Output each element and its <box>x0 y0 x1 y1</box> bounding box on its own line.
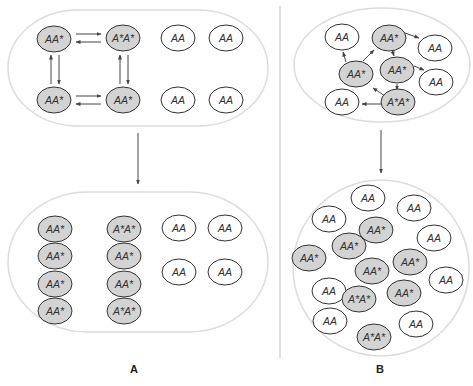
mutant-cell: AA* <box>372 25 406 51</box>
cell-genotype-label: AA* <box>45 223 65 235</box>
cell-genotype-label: A*A* <box>386 96 410 108</box>
cell-genotype-label: AA* <box>400 256 420 268</box>
normal-cell: AA <box>418 35 452 61</box>
cell-genotype-label: AA <box>406 202 421 214</box>
normal-cell: AA <box>162 259 196 285</box>
normal-cell: AA <box>419 69 453 95</box>
mutant-cell: AA* <box>359 217 393 243</box>
cell-genotype-label: AA <box>428 76 443 88</box>
diagram-svg: AA*A*A*AAAAAA*AA*AAAA AA*AA*AA*AA*A*A*AA… <box>0 0 473 386</box>
mutant-cell: AA* <box>107 271 141 297</box>
cell-genotype-label: AA <box>438 274 453 286</box>
normal-cell: AA <box>312 278 346 304</box>
mutant-cell: AA* <box>339 61 373 87</box>
mutant-cell: A*A* <box>107 298 141 324</box>
mutant-cell: AA* <box>38 271 72 297</box>
cell-genotype-label: AA* <box>45 278 65 290</box>
cell-genotype-label: AA <box>321 285 336 297</box>
normal-cell: AA <box>399 311 433 337</box>
cell-genotype-label: AA* <box>387 64 407 76</box>
mutant-cell: AA* <box>355 258 389 284</box>
normal-cell: AA <box>429 267 463 293</box>
mutant-cell: A*A* <box>342 286 376 312</box>
normal-cell: AA <box>209 87 243 113</box>
cell-genotype-label: A*A* <box>347 293 371 305</box>
mutant-cell: AA* <box>37 87 71 113</box>
cell-genotype-label: AA <box>170 94 185 106</box>
mutant-cell: AA* <box>38 298 72 324</box>
normal-cell: AA <box>208 215 242 241</box>
panel-a-label: A <box>130 363 138 375</box>
mutant-cell: AA* <box>387 280 421 306</box>
normal-cell: AA <box>312 206 346 232</box>
cell-genotype-label: AA* <box>45 305 65 317</box>
mutant-cell: AA* <box>332 233 366 259</box>
normal-cell: AA <box>325 24 359 50</box>
cell-genotype-label: AA* <box>394 287 414 299</box>
mutant-cell: A*A* <box>106 25 140 51</box>
normal-cell: AA <box>161 87 195 113</box>
cell-genotype-label: AA* <box>45 250 65 262</box>
cell-genotype-label: AA* <box>366 224 386 236</box>
diagram-canvas: AA*A*A*AAAAAA*AA*AAAA AA*AA*AA*AA*A*A*AA… <box>0 0 473 386</box>
normal-cell: AA <box>209 25 243 51</box>
cell-genotype-label: AA* <box>339 240 359 252</box>
panel-b-label: B <box>376 363 384 375</box>
cell-genotype-label: AA <box>217 266 232 278</box>
cell-genotype-label: A*A* <box>112 305 136 317</box>
cell-genotype-label: AA <box>321 213 336 225</box>
cell-genotype-label: AA* <box>362 265 382 277</box>
cell-genotype-label: AA <box>426 232 441 244</box>
normal-cell: AA <box>208 259 242 285</box>
cell-genotype-label: AA <box>171 222 186 234</box>
cell-genotype-label: AA* <box>114 278 134 290</box>
cell-genotype-label: AA <box>322 315 337 327</box>
mutant-cell: AA* <box>292 245 326 271</box>
normal-cell: AA <box>351 185 385 211</box>
normal-cell: AA <box>397 195 431 221</box>
mutant-cell: AA* <box>393 249 427 275</box>
mutant-cell: AA* <box>38 216 72 242</box>
mutant-cell: AA* <box>380 57 414 83</box>
cell-genotype-label: A*A* <box>362 331 386 343</box>
cell-genotype-label: AA* <box>44 94 64 106</box>
cell-genotype-label: AA <box>217 222 232 234</box>
cell-genotype-label: AA <box>408 318 423 330</box>
cell-genotype-label: AA <box>170 32 185 44</box>
cell-genotype-label: AA* <box>379 32 399 44</box>
mutant-cell: AA* <box>107 243 141 269</box>
cell-genotype-label: AA <box>218 94 233 106</box>
mutant-cell: AA* <box>38 243 72 269</box>
cell-genotype-label: AA <box>171 266 186 278</box>
mutant-cell: AA* <box>37 26 71 52</box>
normal-cell: AA <box>161 25 195 51</box>
cell-genotype-label: AA* <box>346 68 366 80</box>
normal-cell: AA <box>313 308 347 334</box>
cell-genotype-label: A*A* <box>112 223 136 235</box>
cell-genotype-label: AA <box>334 96 349 108</box>
cell-genotype-label: AA <box>427 42 442 54</box>
mutant-cell: A*A* <box>381 89 415 115</box>
cell-genotype-label: AA <box>218 32 233 44</box>
cell-genotype-label: AA* <box>114 250 134 262</box>
cell-genotype-label: AA* <box>113 94 133 106</box>
normal-cell: AA <box>325 89 359 115</box>
normal-cell: AA <box>417 225 451 251</box>
cell-genotype-label: A*A* <box>111 32 135 44</box>
mutant-cell: A*A* <box>357 324 391 350</box>
mutant-cell: AA* <box>106 87 140 113</box>
cell-genotype-label: AA* <box>44 33 64 45</box>
cell-genotype-label: AA <box>360 192 375 204</box>
mutant-cell: A*A* <box>107 216 141 242</box>
cell-genotype-label: AA* <box>299 252 319 264</box>
cell-genotype-label: AA <box>334 31 349 43</box>
normal-cell: AA <box>162 215 196 241</box>
